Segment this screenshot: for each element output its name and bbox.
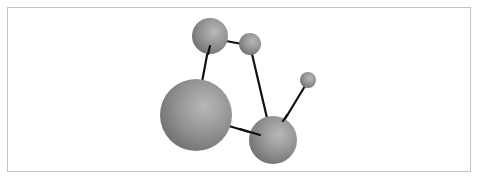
bond-line	[252, 54, 267, 118]
bond-line	[285, 86, 305, 119]
atom-tiny	[300, 72, 316, 88]
atoms-group	[160, 18, 316, 164]
atom-large	[160, 79, 232, 151]
molecule-diagram	[0, 0, 479, 180]
bond-line	[202, 50, 208, 82]
atom-top-small	[239, 33, 261, 55]
atom-lower-right	[249, 116, 297, 164]
